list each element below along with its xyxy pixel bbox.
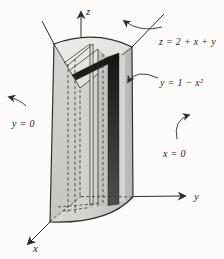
y-axis [134, 196, 185, 197]
z-axis-label: z [85, 5, 91, 17]
textbook-figure: z y x z = 2 + x + y y = 1 − x² y = 0 x =… [0, 0, 224, 259]
highlight-band [120, 55, 126, 202]
y-axis-label: y [193, 190, 199, 202]
plane-equation-label: z = 2 + x + y [158, 36, 216, 47]
cylinder-equation-label: y = 1 − x² [159, 77, 204, 88]
y0-wall-label: y = 0 [11, 118, 35, 129]
x0-wall-label: x = 0 [162, 148, 186, 159]
x-axis-label: x [32, 242, 38, 254]
solid-region-diagram: z y x z = 2 + x + y y = 1 − x² y = 0 x =… [0, 0, 224, 259]
